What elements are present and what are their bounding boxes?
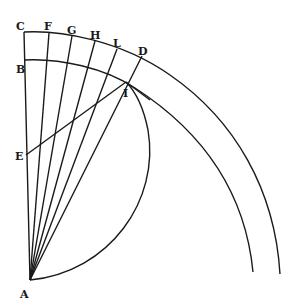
label-D: D xyxy=(138,45,148,58)
outer-arc xyxy=(24,32,280,274)
line-AG xyxy=(30,36,72,280)
geometric-diagram: C F G H L D B I E A xyxy=(0,0,299,306)
label-A: A xyxy=(19,288,29,301)
label-E: E xyxy=(15,150,23,163)
label-I: I xyxy=(123,87,128,100)
label-C: C xyxy=(16,20,25,33)
line-AL xyxy=(30,49,117,280)
line-I-right xyxy=(126,82,150,100)
label-G: G xyxy=(67,24,76,37)
label-H: H xyxy=(90,29,100,42)
label-L: L xyxy=(113,37,121,50)
label-B: B xyxy=(16,63,25,76)
label-F: F xyxy=(44,20,52,33)
arc-AI xyxy=(30,82,150,280)
